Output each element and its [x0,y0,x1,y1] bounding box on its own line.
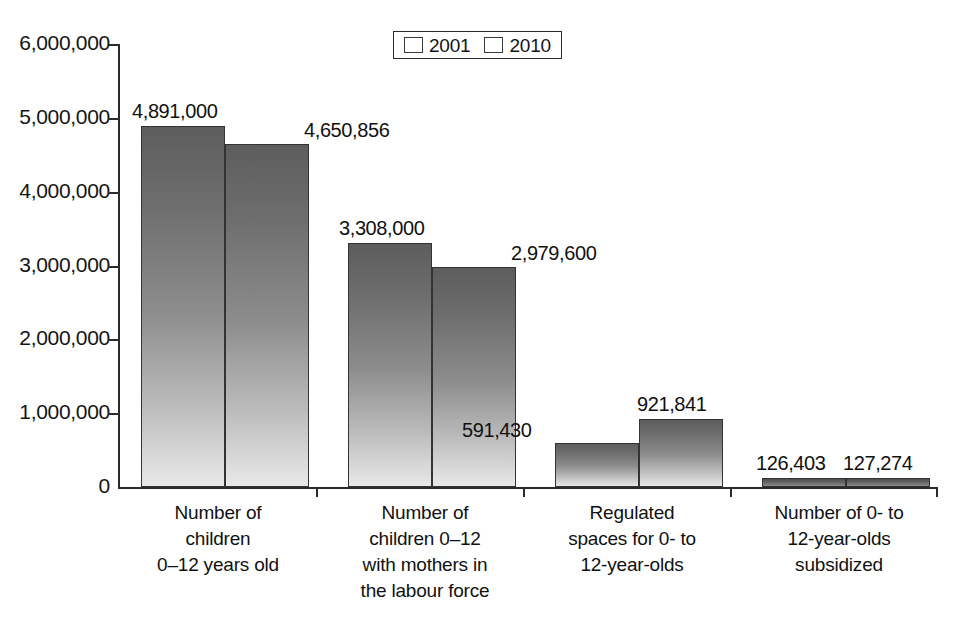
bar-value-2001-regulated-spaces: 591,430 [462,420,532,441]
category-label-regulated-spaces: Regulated spaces for 0- to 12-year-olds [534,500,730,578]
category-label-line: subsidized [741,552,937,578]
bar-group-children-0-12: 4,891,000 4,650,856 [120,44,316,487]
bar-2010-subsidized[interactable]: 127,274 [846,478,930,487]
category-label-subsidized: Number of 0- to 12-year-olds subsidized [741,500,937,578]
y-tick-mark-2000000 [108,339,119,341]
bar-group-subsidized: 126,403 127,274 [741,44,937,487]
category-label-line: children 0–12 [327,526,523,552]
y-tick-label-1000000: 1,000,000 [19,401,110,423]
category-label-children-mothers-labour-force: Number of children 0–12 with mothers in … [327,500,523,604]
y-tick-mark-3000000 [108,266,119,268]
x-axis-separator-2 [523,487,525,497]
y-tick-label-3000000: 3,000,000 [19,254,110,276]
category-label-line: Number of 0- to [741,500,937,526]
x-axis-separator-3 [730,487,732,497]
category-label-children-0-12: Number of children 0–12 years old [120,500,316,578]
y-tick-mark-4000000 [108,192,119,194]
category-label-line: children [120,526,316,552]
bar-chart: 2001 2010 6,000,000 5,000,000 4,000,000 … [0,0,955,630]
category-label-line: spaces for 0- to [534,526,730,552]
bar-value-2001-subsidized: 126,403 [756,453,826,474]
category-label-line: Number of [120,500,316,526]
bar-value-2001-children-0-12: 4,891,000 [132,101,217,122]
y-tick-mark-1000000 [108,413,119,415]
bar-2001-children-mothers[interactable]: 3,308,000 [348,243,432,487]
category-label-line: Regulated [534,500,730,526]
x-axis-separator-4 [936,487,938,497]
y-tick-mark-5000000 [108,118,119,120]
plot-area: 4,891,000 4,650,856 3,308,000 2,979,600 … [120,44,938,487]
bar-2001-regulated-spaces[interactable]: 591,430 [555,443,639,487]
y-tick-label-5000000: 5,000,000 [19,106,110,128]
x-axis-line [118,487,938,489]
bar-value-2010-regulated-spaces: 921,841 [637,394,707,415]
bar-2001-children-0-12[interactable]: 4,891,000 [141,126,225,487]
x-axis-separator-1 [316,487,318,497]
bar-group-regulated-spaces: 591,430 921,841 [534,44,730,487]
category-label-line: with mothers in [327,552,523,578]
bar-2001-subsidized[interactable]: 126,403 [762,478,846,487]
y-tick-label-2000000: 2,000,000 [19,327,110,349]
category-label-line: 12-year-olds [741,526,937,552]
category-label-line: 12-year-olds [534,552,730,578]
y-tick-label-0: 0 [99,475,110,497]
y-tick-label-4000000: 4,000,000 [19,180,110,202]
bar-2010-children-mothers[interactable]: 2,979,600 [432,267,516,487]
bar-2010-regulated-spaces[interactable]: 921,841 [639,419,723,487]
bar-value-2010-subsidized: 127,274 [843,453,913,474]
category-label-line: 0–12 years old [120,552,316,578]
bar-value-2001-children-mothers: 3,308,000 [339,218,424,239]
y-tick-label-6000000: 6,000,000 [19,32,110,54]
category-label-line: Number of [327,500,523,526]
category-label-line: the labour force [327,578,523,604]
bar-2010-children-0-12[interactable]: 4,650,856 [225,144,309,487]
